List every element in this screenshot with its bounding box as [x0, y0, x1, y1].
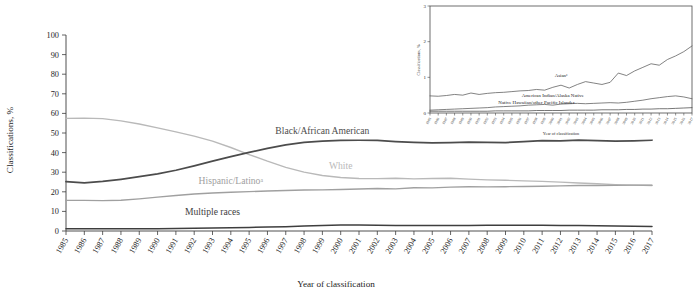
inset-x-axis-title: Year of classification — [543, 131, 580, 136]
x-tick-label: 1987 — [91, 237, 107, 256]
x-tick-label: 1991 — [164, 237, 180, 256]
series-label-multiple-races: Multiple races — [185, 206, 240, 217]
inset-y-tick-label: 1 — [424, 75, 427, 80]
series-label-white: White — [329, 160, 352, 171]
x-tick-label: 2002 — [365, 237, 381, 256]
main-x-tick-labels: 1985198619871988198919901991199219931994… — [54, 236, 656, 256]
y-tick-label: 0 — [55, 227, 59, 236]
x-tick-label: 2016 — [622, 237, 638, 256]
x-tick-label: 1988 — [109, 237, 125, 256]
x-tick-label: 1989 — [127, 237, 143, 256]
inset-x-tick-label: 1985 — [425, 117, 432, 125]
inset-x-tick-label: 2008 — [613, 117, 620, 125]
x-tick-label: 2011 — [530, 237, 546, 256]
x-tick-label: 2001 — [347, 237, 363, 256]
inset-x-tick-label: 2006 — [597, 117, 604, 125]
x-tick-label: 2003 — [384, 237, 400, 256]
inset-x-tick-label: 2009 — [622, 117, 629, 125]
inset-x-tick-label: 2000 — [548, 117, 555, 125]
inset-x-tick-label: 2013 — [654, 117, 661, 125]
y-tick-label: 40 — [51, 149, 59, 158]
series-label-black-african-american: Black/African American — [275, 125, 369, 136]
inset-x-tick-label: 2003 — [572, 117, 579, 125]
x-tick-label: 1992 — [182, 237, 198, 256]
chart-svg: 0102030405060708090100 19851986198719881… — [0, 0, 698, 293]
inset-series-label-asian: Asianᵃ — [555, 73, 568, 78]
inset-x-tick-label: 2001 — [556, 117, 563, 125]
inset-x-tick-label: 2016 — [679, 117, 686, 125]
inset-x-tick-label: 2017 — [687, 117, 694, 125]
inset-x-tick-label: 1988 — [450, 117, 457, 125]
x-tick-label: 2009 — [494, 237, 510, 256]
series-line-black-african-american — [66, 140, 652, 183]
x-tick-label: 1986 — [72, 237, 88, 256]
figure-container: 0102030405060708090100 19851986198719881… — [0, 0, 698, 293]
main-series-labels: WhiteBlack/African AmericanHispanic/Lati… — [185, 125, 370, 217]
inset-x-tick-label: 1999 — [540, 117, 547, 125]
x-tick-label: 2005 — [420, 237, 436, 256]
y-tick-label: 20 — [51, 188, 59, 197]
inset-x-tick-label: 2005 — [589, 117, 596, 125]
x-tick-label: 1993 — [201, 237, 217, 256]
y-tick-label: 50 — [51, 129, 59, 138]
inset-x-tick-label: 1990 — [466, 117, 473, 125]
inset-x-tick-label: 1994 — [499, 117, 506, 125]
inset-x-tick-label: 2002 — [564, 117, 571, 125]
inset-x-tick-label: 2007 — [605, 117, 612, 125]
x-tick-label: 1997 — [274, 237, 290, 256]
series-line-hispanic-latino — [66, 185, 652, 200]
inset-x-tick-label: 1995 — [507, 117, 514, 125]
y-tick-label: 10 — [51, 207, 59, 216]
inset-x-tick-label: 2010 — [630, 117, 637, 125]
x-tick-label: 2014 — [585, 236, 602, 256]
x-tick-label: 1994 — [219, 236, 236, 256]
x-tick-label: 1985 — [54, 237, 70, 256]
inset-x-tick-label: 1998 — [532, 117, 539, 125]
inset-y-tick-labels: 0123 — [424, 4, 427, 116]
x-tick-label: 2006 — [439, 237, 455, 256]
inset-y-tick-label: 2 — [424, 39, 427, 44]
x-tick-label: 1990 — [146, 237, 162, 256]
inset-x-tick-label: 1997 — [523, 117, 530, 125]
x-tick-label: 1999 — [311, 237, 327, 256]
inset-x-tick-label: 1992 — [482, 117, 489, 125]
y-tick-label: 90 — [51, 51, 59, 60]
inset-x-tick-label: 1987 — [441, 117, 448, 125]
x-tick-label: 1998 — [292, 237, 308, 256]
inset-x-tick-label: 1993 — [491, 117, 498, 125]
x-tick-label: 1996 — [256, 237, 272, 256]
x-tick-label: 1995 — [237, 237, 253, 256]
inset-series-label-native-hawaiian-other-pacific-islander: Native Hawaiian/other Pacific Islander — [498, 100, 575, 105]
inset-x-tick-label: 2011 — [638, 117, 645, 125]
y-tick-label: 30 — [51, 168, 59, 177]
series-label-hispanic-latino: Hispanic/Latinoᵃ — [199, 175, 264, 186]
inset-x-tick-label: 1986 — [433, 117, 440, 125]
x-tick-label: 2012 — [549, 237, 565, 256]
inset-x-tick-label: 1996 — [515, 117, 522, 125]
y-tick-label: 60 — [51, 109, 59, 118]
inset-x-tick-label: 1991 — [474, 117, 481, 125]
main-x-axis-title: Year of classification — [297, 279, 375, 289]
x-tick-label: 2008 — [475, 237, 491, 256]
x-tick-label: 2013 — [567, 237, 583, 256]
x-tick-label: 2000 — [329, 237, 345, 256]
inset-x-tick-label: 2015 — [671, 117, 678, 125]
inset-y-axis-title: Classifications, % — [416, 44, 422, 75]
inset-x-tick-label: 2004 — [581, 117, 588, 125]
x-tick-label: 2017 — [640, 237, 656, 256]
inset-y-tick-label: 3 — [424, 4, 427, 9]
inset-x-tick-label: 2012 — [646, 117, 653, 125]
series-line-multiple-races — [66, 225, 652, 229]
inset-y-tick-label: 0 — [424, 111, 427, 116]
main-y-axis-title: Classifications, % — [5, 106, 15, 173]
main-y-tick-labels: 0102030405060708090100 — [47, 31, 59, 236]
y-tick-label: 80 — [51, 70, 59, 79]
inset-x-tick-labels: 1985198619871988198919901991199219931994… — [425, 117, 694, 125]
y-tick-label: 70 — [51, 90, 59, 99]
x-tick-label: 2007 — [457, 237, 473, 256]
x-tick-label: 2004 — [402, 236, 419, 256]
inset-series-label-american-indian-alaska-native: American Indian/Alaska Native — [522, 93, 584, 98]
x-tick-label: 2015 — [604, 237, 620, 256]
x-tick-label: 2010 — [512, 237, 528, 256]
inset-line-chart: 0123 19851986198719881989199019911992199… — [416, 4, 694, 136]
